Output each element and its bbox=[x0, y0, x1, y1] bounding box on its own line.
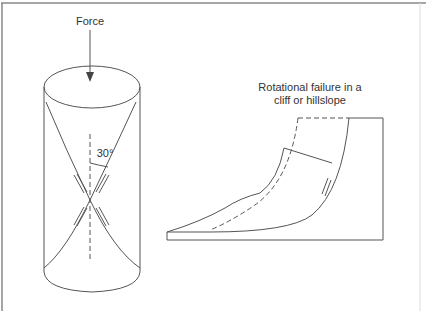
force-arrowhead bbox=[86, 72, 94, 82]
force-label: Force bbox=[70, 15, 110, 28]
cylinder-bottom bbox=[44, 272, 140, 292]
cylinder-diagram bbox=[44, 30, 140, 292]
angle-arc bbox=[90, 163, 108, 167]
title-line-2: cliff or hillslope bbox=[240, 94, 380, 107]
hillslope-diagram bbox=[167, 118, 383, 240]
angle-label: 30° bbox=[93, 147, 117, 160]
slumped-block bbox=[167, 148, 332, 232]
slip-surface bbox=[167, 118, 349, 232]
slope-outline bbox=[167, 118, 383, 240]
shear-plane-lower-left bbox=[44, 200, 90, 268]
original-profile-dashed bbox=[210, 118, 298, 230]
title-line-1: Rotational failure in a bbox=[240, 81, 380, 94]
diagram-canvas bbox=[0, 0, 426, 311]
